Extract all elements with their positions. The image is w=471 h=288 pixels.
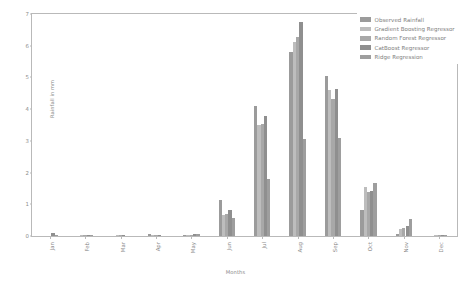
bar — [232, 218, 235, 236]
legend-swatch-icon — [360, 27, 371, 32]
x-tick-label: Nov — [403, 242, 409, 253]
bar — [409, 219, 412, 236]
y-tick-label: 3 — [26, 138, 29, 144]
y-tick-mark — [30, 14, 32, 15]
legend-swatch-icon — [360, 45, 371, 50]
x-tick-label: May — [190, 242, 196, 253]
legend-item: CatBoost Regressor — [360, 43, 467, 52]
chart-legend: Observed RainfallGradient Boosting Regre… — [357, 12, 469, 64]
x-tick-mark — [262, 236, 263, 239]
x-tick-mark — [50, 236, 51, 239]
legend-label: Ridge Regression — [375, 54, 423, 60]
x-tick-mark — [439, 236, 440, 239]
bar — [444, 235, 447, 236]
legend-item: Random Forest Regressor — [360, 34, 467, 43]
y-tick-label: 2 — [26, 170, 29, 176]
x-tick-mark — [333, 236, 334, 239]
x-tick-label: Oct — [367, 242, 373, 251]
y-tick-label: 0 — [26, 233, 29, 239]
x-tick-mark — [191, 236, 192, 239]
x-tick-label: Jan — [49, 242, 55, 250]
legend-label: Observed Rainfall — [375, 17, 425, 23]
y-tick-label: 1 — [26, 201, 29, 207]
x-tick-label: Jun — [226, 242, 232, 250]
y-axis-label: Rainfall in mm — [49, 39, 55, 159]
x-tick-label: Jul — [261, 242, 267, 249]
legend-swatch-icon — [360, 17, 371, 22]
bar — [55, 235, 58, 236]
x-tick-mark — [404, 236, 405, 239]
legend-item: Ridge Regression — [360, 52, 467, 61]
y-tick-mark — [30, 172, 32, 173]
y-tick-mark — [30, 140, 32, 141]
legend-label: Random Forest Regressor — [375, 35, 447, 41]
bar — [267, 179, 270, 236]
legend-label: CatBoost Regressor — [375, 45, 430, 51]
y-tick-label: 5 — [26, 74, 29, 80]
bar — [196, 234, 199, 236]
legend-item: Gradient Boosting Regressor — [360, 24, 467, 33]
y-tick-mark — [30, 204, 32, 205]
x-tick-label: Sep — [332, 242, 338, 252]
chart-figure: 01234567 JanFebMarAprMayJunJulAugSepOctN… — [0, 0, 471, 288]
bar — [158, 235, 161, 236]
x-tick-label: Mar — [120, 242, 126, 252]
x-tick-label: Feb — [84, 242, 90, 252]
legend-swatch-icon — [360, 55, 371, 60]
bar — [122, 235, 125, 236]
x-axis-label: Months — [0, 269, 471, 275]
bar — [338, 138, 341, 236]
x-tick-mark — [156, 236, 157, 239]
y-tick-label: 4 — [26, 106, 29, 112]
legend-swatch-icon — [360, 36, 371, 41]
legend-item: Observed Rainfall — [360, 15, 467, 24]
x-tick-label: Aug — [297, 242, 303, 253]
legend-label: Gradient Boosting Regressor — [375, 26, 455, 32]
bar — [373, 183, 376, 236]
y-tick-mark — [30, 109, 32, 110]
y-tick-mark — [30, 236, 32, 237]
y-tick-label: 6 — [26, 43, 29, 49]
x-tick-mark — [368, 236, 369, 239]
x-tick-label: Apr — [155, 242, 161, 251]
y-tick-mark — [30, 77, 32, 78]
x-tick-mark — [227, 236, 228, 239]
y-tick-mark — [30, 45, 32, 46]
x-tick-mark — [298, 236, 299, 239]
x-tick-label: Dec — [438, 242, 444, 252]
x-tick-mark — [85, 236, 86, 239]
bar — [90, 235, 93, 236]
x-tick-mark — [121, 236, 122, 239]
bar — [303, 139, 306, 236]
y-tick-label: 7 — [26, 11, 29, 17]
